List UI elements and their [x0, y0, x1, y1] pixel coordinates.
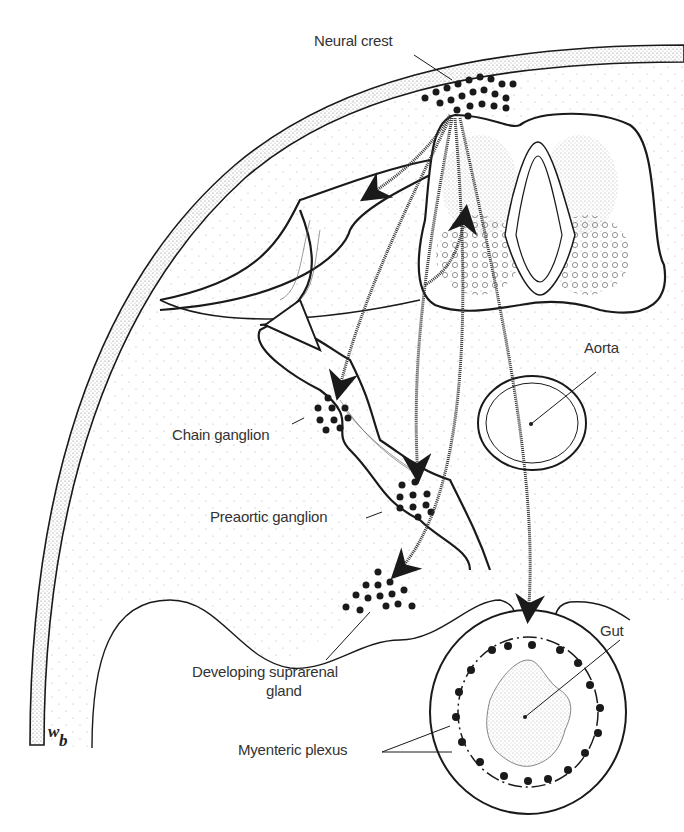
label-suprarenal-line1: Developing suprarenal [192, 663, 338, 680]
label-aorta: Aorta [584, 339, 619, 356]
label-suprarenal-line2: gland [266, 682, 302, 699]
neural-crest-diagram [0, 0, 684, 832]
label-preaortic-ganglion: Preaortic ganglion [210, 508, 327, 525]
gut [430, 610, 626, 814]
label-body-wall-w: w [48, 722, 59, 742]
label-gut: Gut [600, 622, 624, 639]
neural-tube [419, 114, 665, 313]
label-neural-crest: Neural crest [314, 32, 392, 49]
label-chain-ganglion: Chain ganglion [172, 426, 269, 443]
label-myenteric-plexus: Myenteric plexus [238, 741, 347, 758]
label-body-wall-b: b [59, 731, 68, 751]
